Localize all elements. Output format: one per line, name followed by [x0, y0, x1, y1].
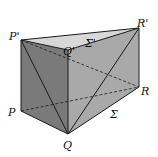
label-p-prime: P' — [8, 30, 19, 43]
label-q-prime: Q' — [63, 45, 75, 58]
label-r: R — [140, 85, 149, 98]
prism-diagram: P' Q' R' Σ' R P Σ Q — [0, 0, 158, 157]
label-q: Q — [63, 139, 72, 152]
label-p: P — [7, 106, 16, 119]
label-r-prime: R' — [136, 17, 148, 30]
label-sigma: Σ — [109, 108, 118, 121]
label-sigma-prime: Σ' — [84, 37, 96, 50]
